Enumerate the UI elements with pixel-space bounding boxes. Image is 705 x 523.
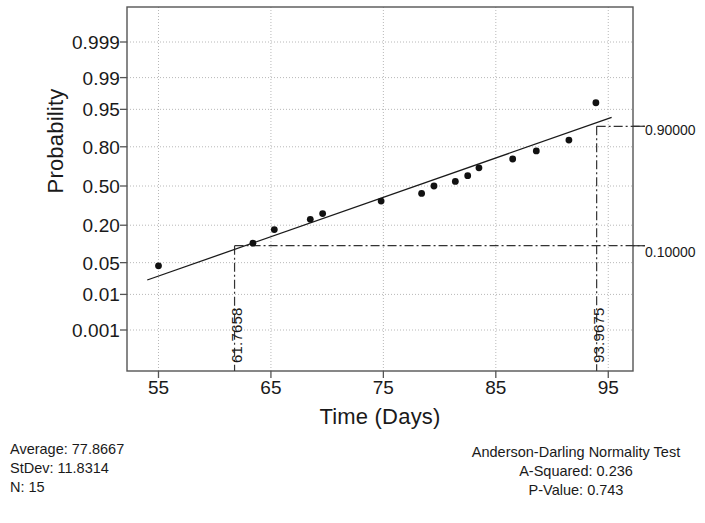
data-point — [307, 216, 314, 223]
y-tick-label: 0.01 — [12, 285, 120, 304]
right-vline-value-label: 93.9675 — [591, 307, 606, 363]
stat-average: Average: 77.8667 — [10, 440, 124, 459]
x-tick-label: 75 — [348, 378, 418, 398]
y-axis-ticks — [120, 42, 127, 330]
x-tick-label: 65 — [236, 378, 306, 398]
data-point — [319, 210, 326, 217]
reference-lines — [235, 126, 645, 371]
left-vline-value-label: 61.7658 — [229, 307, 244, 363]
lower-percentile-label: 0.10000 — [645, 245, 696, 259]
data-point — [464, 172, 471, 179]
upper-percentile-label: 0.90000 — [645, 123, 696, 137]
plot-frame — [127, 7, 633, 371]
data-point — [378, 198, 385, 205]
y-tick-label: 0.05 — [12, 254, 120, 273]
data-point — [452, 178, 459, 185]
stat-n: N: 15 — [10, 478, 124, 497]
data-point — [250, 240, 257, 247]
data-points — [155, 99, 599, 269]
x-tick-label: 55 — [123, 378, 193, 398]
data-point — [566, 137, 573, 144]
data-point — [155, 262, 162, 269]
anderson-darling-block: Anderson-Darling Normality Test A-Square… — [452, 443, 700, 500]
vertical-gridlines — [158, 7, 608, 371]
x-tick-label: 95 — [573, 378, 643, 398]
data-point — [271, 226, 278, 233]
y-axis-title: Probability — [43, 41, 69, 241]
ad-test-title: Anderson-Darling Normality Test — [452, 443, 700, 462]
data-point — [431, 183, 438, 190]
ad-a-squared: A-Squared: 0.236 — [452, 462, 700, 481]
horizontal-gridlines — [127, 42, 633, 330]
x-tick-label: 85 — [461, 378, 531, 398]
y-tick-label: 0.001 — [12, 321, 120, 340]
normal-probability-plot: 0.9990.990.950.800.500.200.050.010.001 5… — [0, 0, 705, 523]
data-point — [533, 148, 540, 155]
x-axis-title: Time (Days) — [127, 404, 633, 430]
data-point — [418, 190, 425, 197]
data-point — [592, 99, 599, 106]
data-point — [509, 156, 516, 163]
data-point — [476, 164, 483, 171]
ad-p-value: P-Value: 0.743 — [452, 481, 700, 500]
stat-stdev: StDev: 11.8314 — [10, 459, 124, 478]
descriptive-stats-block: Average: 77.8667 StDev: 11.8314 N: 15 — [10, 440, 124, 497]
